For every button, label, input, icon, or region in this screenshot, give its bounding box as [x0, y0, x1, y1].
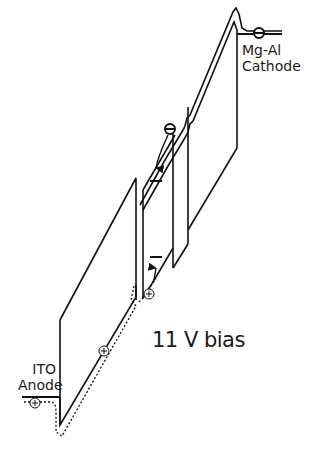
electron-in-etl: [165, 124, 175, 134]
thin-layer-bottom: [173, 244, 188, 268]
cathode-label: Mg-Al Cathode: [242, 42, 301, 74]
hole-at-interface: [144, 289, 154, 299]
anode-label-line2: Anode: [18, 377, 56, 393]
bias-label: 11 V bias: [152, 328, 245, 352]
hole-at-anode: [30, 398, 40, 408]
cathode-label-line2: Cathode: [242, 58, 301, 74]
htl-lumo-band: [60, 178, 136, 320]
thin-layer-lower-slope: [156, 248, 173, 277]
electron-at-cathode: [254, 28, 264, 38]
anode-label: ITO Anode: [18, 361, 56, 393]
hole-in-htl: [99, 346, 109, 356]
cathode-label-line1: Mg-Al: [242, 42, 301, 58]
anode-label-line1: ITO: [18, 361, 56, 377]
htl-valence-band: [60, 285, 136, 425]
etl-lower-slope: [188, 148, 237, 230]
hole-path: [24, 278, 156, 436]
